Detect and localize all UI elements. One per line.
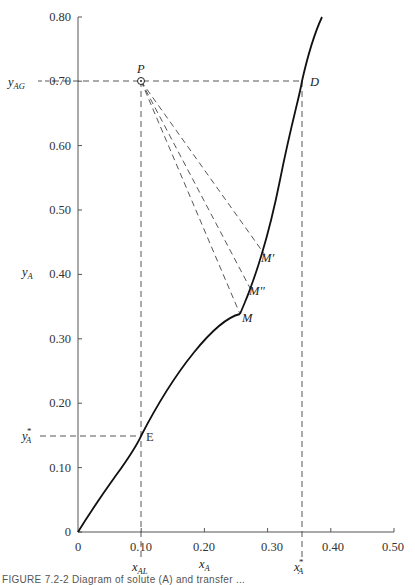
y-tick-labels: 0 0.10 0.20 0.30 0.40 0.50 0.60 0.70 0.8… [49,10,71,539]
point-e-label: E [146,430,154,444]
x-axis-title: xA [198,557,211,573]
y-tick-label: 0.40 [49,267,71,281]
point-p-dot [140,80,142,82]
y-tick-label: 0.20 [49,396,71,410]
y-tick-label: 0.60 [49,139,71,153]
point-d-label: D [309,75,319,89]
y-tick-label: 0 [65,525,71,539]
point-p-label: P [136,62,145,76]
y-star-label: y*A [20,426,32,445]
equilibrium-curve [78,17,322,532]
point-m1-label: M' [260,251,274,265]
tie-line-pm [141,81,240,314]
point-m2-label: M'' [248,284,265,298]
x-tick-labels: 0 0.10 0.20 0.30 0.40 0.50 [75,540,404,554]
x-tick-label: 0 [75,540,81,554]
y-tick-label: 0.10 [49,461,71,475]
y-tick-label: 0.30 [49,332,71,346]
tie-line-pm1 [141,81,265,255]
y-ticks [78,17,82,532]
guide-lines [40,81,302,560]
x-ticks [141,528,394,532]
y-axis-title: yA [20,265,34,281]
y-ag-label: yAG [6,75,25,91]
figure-caption: FIGURE 7.2-2 Diagram of solute (A) and t… [2,574,245,585]
x-star-label: x*A [293,557,304,576]
y-tick-label: 0.80 [49,10,71,24]
tie-line-pm2 [141,81,250,288]
x-tick-label: 0.50 [382,540,404,554]
y-tick-label: 0.50 [49,203,71,217]
x-tick-label: 0.20 [193,540,215,554]
point-m-label: M [241,311,253,325]
x-tick-label: 0.40 [322,540,344,554]
x-tick-label: 0.30 [261,540,283,554]
